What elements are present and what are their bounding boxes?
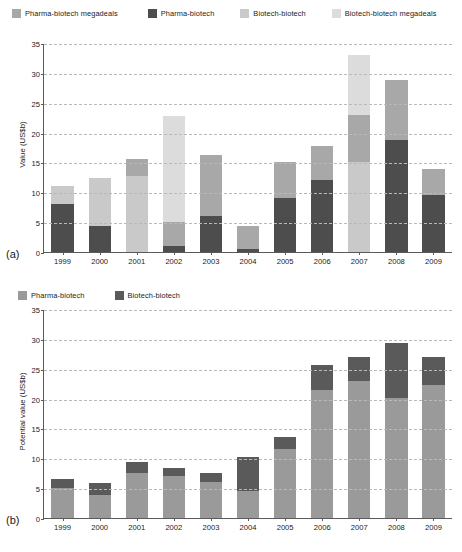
x-tick-label: 2000 xyxy=(81,523,118,532)
bar-group[interactable]: 2003 xyxy=(192,44,229,252)
gridline xyxy=(44,223,452,224)
stacked-bar[interactable] xyxy=(348,357,370,518)
bar-segment[interactable] xyxy=(422,385,444,518)
bar-segment[interactable] xyxy=(422,169,444,195)
bar-segment[interactable] xyxy=(274,198,296,252)
stacked-bar[interactable] xyxy=(163,468,185,518)
bar-segment[interactable] xyxy=(126,473,148,518)
bar-group[interactable]: 2005 xyxy=(267,44,304,252)
bar-group[interactable]: 2002 xyxy=(155,44,192,252)
x-tick-mark xyxy=(63,518,64,521)
x-tick-label: 2007 xyxy=(341,523,378,532)
stacked-bar[interactable] xyxy=(237,226,259,252)
bar-segment[interactable] xyxy=(348,55,370,115)
bar-segment[interactable] xyxy=(200,482,222,518)
stacked-bar[interactable] xyxy=(422,169,444,252)
x-tick-label: 2004 xyxy=(229,523,266,532)
stacked-bar[interactable] xyxy=(422,357,444,518)
x-tick-mark xyxy=(137,252,138,255)
bar-group[interactable]: 2001 xyxy=(118,44,155,252)
bar-segment[interactable] xyxy=(237,226,259,249)
y-tick-label: 30 xyxy=(32,69,44,78)
bar-group[interactable]: 2008 xyxy=(378,310,415,518)
stacked-bar[interactable] xyxy=(163,116,185,252)
bar-segment[interactable] xyxy=(237,457,259,491)
bar-group[interactable]: 2005 xyxy=(267,310,304,518)
bar-segment[interactable] xyxy=(385,80,407,140)
bar-group[interactable]: 2002 xyxy=(155,310,192,518)
gridline xyxy=(44,193,452,194)
y-tick-label: 20 xyxy=(32,395,44,404)
bar-group[interactable]: 1999 xyxy=(44,44,81,252)
bar-segment[interactable] xyxy=(51,186,73,205)
bar-group[interactable]: 1999 xyxy=(44,310,81,518)
stacked-bar[interactable] xyxy=(200,473,222,518)
bar-segment[interactable] xyxy=(311,390,333,518)
stacked-bar[interactable] xyxy=(274,162,296,252)
bar-segment[interactable] xyxy=(237,491,259,518)
bar-segment[interactable] xyxy=(385,140,407,252)
bar-group[interactable]: 2003 xyxy=(192,310,229,518)
bar-segment[interactable] xyxy=(126,159,148,175)
bar-segment[interactable] xyxy=(89,495,111,518)
legend-swatch-icon xyxy=(115,291,124,300)
bar-segment[interactable] xyxy=(51,479,73,489)
y-tick-label: 5 xyxy=(36,219,44,228)
bar-segment[interactable] xyxy=(422,357,444,386)
y-tick-label: 15 xyxy=(32,159,44,168)
stacked-bar[interactable] xyxy=(274,437,296,518)
bar-group[interactable]: 2007 xyxy=(341,310,378,518)
bar-segment[interactable] xyxy=(163,476,185,518)
stacked-bar[interactable] xyxy=(200,155,222,252)
x-tick-mark xyxy=(63,252,64,255)
x-tick-label: 2007 xyxy=(341,257,378,266)
legend-swatch-icon xyxy=(18,291,27,300)
x-tick-mark xyxy=(211,252,212,255)
bar-group[interactable]: 2000 xyxy=(81,310,118,518)
stacked-bar[interactable] xyxy=(89,178,111,252)
bar-segment[interactable] xyxy=(89,226,111,252)
stacked-bar[interactable] xyxy=(311,365,333,518)
bar-segment[interactable] xyxy=(126,462,148,473)
bar-segment[interactable] xyxy=(51,488,73,518)
legend-label: Biotech-biotech megadeals xyxy=(345,9,437,18)
bar-group[interactable]: 2004 xyxy=(229,44,266,252)
stacked-bar[interactable] xyxy=(89,483,111,518)
bar-segment[interactable] xyxy=(163,468,185,476)
bar-segment[interactable] xyxy=(51,204,73,252)
bar-segment[interactable] xyxy=(126,176,148,252)
x-tick-mark xyxy=(100,518,101,521)
bar-segment[interactable] xyxy=(200,216,222,252)
bar-segment[interactable] xyxy=(163,116,185,222)
bar-segment[interactable] xyxy=(348,381,370,518)
bar-group[interactable]: 2008 xyxy=(378,44,415,252)
legend-item-biotech-biotech: Biotech-biotech xyxy=(115,291,180,300)
bar-group[interactable]: 2000 xyxy=(81,44,118,252)
chart-a-legend: Pharma-biotech megadeals Pharma-biotech … xyxy=(12,9,452,18)
stacked-bar[interactable] xyxy=(311,146,333,252)
bar-segment[interactable] xyxy=(348,162,370,252)
x-tick-mark xyxy=(359,252,360,255)
bar-segment[interactable] xyxy=(163,222,185,246)
x-tick-label: 2004 xyxy=(229,257,266,266)
x-tick-mark xyxy=(137,518,138,521)
stacked-bar[interactable] xyxy=(385,80,407,252)
bar-group[interactable]: 2006 xyxy=(304,310,341,518)
bar-group[interactable]: 2004 xyxy=(229,310,266,518)
bar-segment[interactable] xyxy=(89,178,111,226)
bar-group[interactable]: 2009 xyxy=(415,44,452,252)
stacked-bar[interactable] xyxy=(126,159,148,252)
stacked-bar[interactable] xyxy=(51,479,73,518)
stacked-bar[interactable] xyxy=(237,457,259,518)
bar-segment[interactable] xyxy=(385,398,407,518)
stacked-bar[interactable] xyxy=(51,186,73,252)
bar-group[interactable]: 2007 xyxy=(341,44,378,252)
bar-group[interactable]: 2001 xyxy=(118,310,155,518)
bar-group[interactable]: 2009 xyxy=(415,310,452,518)
bar-segment[interactable] xyxy=(200,473,222,482)
bar-segment[interactable] xyxy=(274,437,296,450)
bar-group[interactable]: 2006 xyxy=(304,44,341,252)
bar-segment[interactable] xyxy=(348,115,370,163)
bar-segment[interactable] xyxy=(311,180,333,252)
gridline xyxy=(44,44,452,45)
